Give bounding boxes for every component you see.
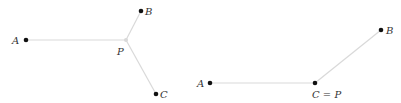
label-B: B [144, 6, 152, 17]
point-C-equals-P [313, 81, 318, 86]
diagram: A B C P A B C = P [0, 0, 401, 103]
edge-B-CP [315, 30, 381, 83]
label-B: B [385, 25, 393, 36]
point-C [154, 92, 159, 97]
point-A [24, 38, 29, 43]
label-C-equals-P: C = P [312, 89, 341, 100]
label-A: A [11, 35, 19, 46]
edge-C-P [126, 40, 156, 94]
point-B [139, 9, 144, 14]
label-P: P [116, 46, 124, 57]
point-P [124, 38, 128, 42]
label-C: C [160, 89, 168, 100]
left-panel: A B C P [11, 6, 168, 100]
edge-B-P [126, 11, 141, 40]
point-A [208, 81, 213, 86]
right-panel: A B C = P [196, 25, 393, 100]
point-B [379, 28, 384, 33]
label-A: A [196, 78, 204, 89]
